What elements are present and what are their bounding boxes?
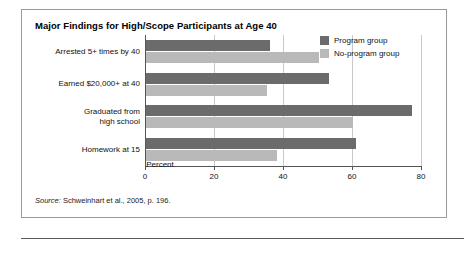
x-axis-tick-label: 40	[279, 172, 288, 181]
source-citation: Schweinhart et al., 2005, p. 196.	[61, 196, 171, 205]
x-axis-tick	[421, 166, 422, 170]
x-axis-tick-label: 60	[348, 172, 357, 181]
x-axis-tick-label: 80	[417, 172, 426, 181]
x-axis-title: Percent	[146, 160, 174, 169]
gridline	[421, 35, 422, 166]
figure-title: Major Findings for High/Scope Participan…	[35, 20, 277, 31]
legend-swatch-icon	[320, 36, 329, 45]
category-label: Arrested 5+ times by 40	[22, 47, 140, 57]
category-label: Earned $20,000+ at 40	[22, 79, 140, 89]
legend-item: Program group	[320, 36, 399, 45]
bar-program	[146, 105, 412, 116]
x-axis-tick	[214, 166, 215, 170]
x-axis-tick-label: 20	[210, 172, 219, 181]
category-label: Graduated fromhigh school	[22, 107, 140, 126]
legend-label: No-program group	[334, 49, 399, 58]
x-axis-tick-label: 0	[143, 172, 147, 181]
bar-noprogram	[146, 117, 353, 128]
source-note: Source: Schweinhart et al., 2005, p. 196…	[35, 196, 171, 205]
legend-swatch-icon	[320, 49, 329, 58]
category-axis-labels: Arrested 5+ times by 40Earned $20,000+ a…	[22, 35, 140, 166]
bar-program	[146, 73, 329, 84]
chart-legend: Program groupNo-program group	[320, 36, 399, 62]
bar-program	[146, 40, 270, 51]
bar-noprogram	[146, 85, 267, 96]
category-label: Homework at 15	[22, 145, 140, 155]
x-axis-tick	[283, 166, 284, 170]
bar-noprogram	[146, 52, 319, 63]
bar-program	[146, 138, 356, 149]
legend-label: Program group	[334, 36, 387, 45]
bottom-divider	[21, 238, 464, 239]
source-label: Source:	[35, 196, 61, 205]
figure-container: Major Findings for High/Scope Participan…	[21, 9, 447, 218]
legend-item: No-program group	[320, 49, 399, 58]
x-axis-tick	[352, 166, 353, 170]
